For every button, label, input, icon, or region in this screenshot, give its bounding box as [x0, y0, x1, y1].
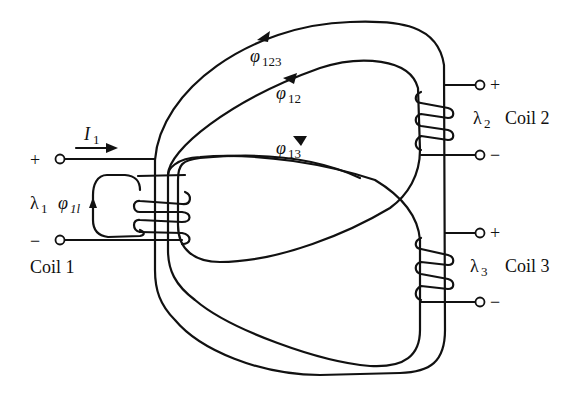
coil-1-minus-label: −: [30, 231, 40, 251]
coil-1-minus-terminal: [56, 236, 65, 245]
lambda-2-sub: 2: [484, 116, 491, 131]
coil-3-name: Coil 3: [505, 256, 550, 276]
phi-1l-sub: 1l: [70, 201, 81, 216]
phi-123-symbol: φ: [250, 46, 260, 66]
coupled-coils-diagram: + − Coil 1 I 1 λ 1 φ 1l φ 123 φ 12 φ 13 …: [0, 0, 583, 396]
lambda-2-symbol: λ: [473, 108, 482, 128]
current-sub: 1: [93, 132, 100, 147]
coil-1-plus-label: +: [30, 150, 40, 170]
arrow-phi123: [257, 31, 270, 42]
arrow-phi1l: [89, 197, 97, 208]
coil-2-plus-label: +: [490, 75, 500, 95]
arrow-phi13: [293, 136, 307, 146]
coil-3-minus-label: −: [490, 292, 500, 312]
coil-2-minus-label: −: [490, 145, 500, 165]
lambda-1-sub: 1: [41, 201, 48, 216]
lambda-3-symbol: λ: [470, 256, 479, 276]
phi-123-sub: 123: [262, 54, 282, 69]
coil-3-plus-label: +: [490, 223, 500, 243]
lambda-3-sub: 3: [481, 264, 488, 279]
lambda-1-symbol: λ: [30, 193, 39, 213]
phi-1l-symbol: φ: [58, 193, 68, 213]
phi-13-symbol: φ: [276, 138, 286, 158]
current-arrow-head: [106, 143, 118, 153]
coil-1-plus-terminal: [56, 155, 65, 164]
coil-2-name: Coil 2: [505, 108, 550, 128]
phi-12-symbol: φ: [276, 83, 286, 103]
phi-12-sub: 12: [288, 91, 301, 106]
coil-1-name: Coil 1: [30, 257, 75, 277]
flux-path-phi1l: [93, 175, 144, 237]
current-symbol: I: [83, 124, 91, 144]
phi-13-sub: 13: [288, 146, 301, 161]
